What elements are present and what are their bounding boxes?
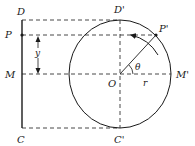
label-C-prime: C' — [114, 134, 124, 145]
label-D-prime: D' — [113, 4, 125, 15]
label-y: y — [34, 48, 41, 58]
label-D: D — [16, 6, 25, 17]
point-P — [20, 33, 23, 36]
label-O: O — [108, 78, 116, 89]
theta-arc — [129, 65, 133, 74]
y-arrow-up-icon — [36, 36, 41, 42]
label-P-prime: P' — [158, 23, 168, 34]
label-P: P — [4, 29, 12, 40]
label-M: M — [4, 69, 16, 80]
label-theta: θ — [135, 62, 141, 72]
projection-diagram: D P M C D' P' M' C' O θ r y — [0, 0, 195, 146]
label-M-prime: M' — [175, 69, 189, 80]
rotation-arrow-icon — [131, 35, 158, 55]
label-C: C — [17, 134, 25, 145]
label-r: r — [143, 78, 148, 88]
y-arrow-down-icon — [36, 68, 41, 74]
